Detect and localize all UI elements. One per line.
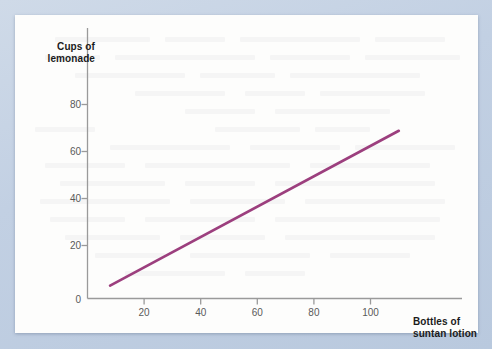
x-axis-title-line2: suntan lotion (413, 328, 492, 340)
y-tick-label-0: 0 (55, 294, 81, 305)
chart-card: 0 20 40 60 80 20 40 60 80 100 Cups of le… (15, 15, 478, 333)
y-axis-title-line2: lemonade (33, 53, 95, 65)
x-tick-label-40: 40 (186, 307, 216, 318)
x-axis-title-line1: Bottles of (413, 316, 492, 328)
plot-area: 0 20 40 60 80 20 40 60 80 100 Cups of le… (15, 15, 478, 333)
x-tick-label-60: 60 (242, 307, 272, 318)
data-line-series-0 (110, 131, 399, 286)
x-tick-label-20: 20 (129, 307, 159, 318)
page-background: 0 20 40 60 80 20 40 60 80 100 Cups of le… (0, 0, 492, 349)
y-axis-title-line1: Cups of (33, 41, 95, 53)
y-tick-label-60: 60 (55, 146, 81, 157)
y-tick-label-40: 40 (55, 193, 81, 204)
y-tick-label-80: 80 (55, 99, 81, 110)
x-tick-label-100: 100 (356, 307, 386, 318)
x-tick-label-80: 80 (299, 307, 329, 318)
y-axis-title: Cups of lemonade (33, 41, 95, 65)
y-tick-label-20: 20 (55, 240, 81, 251)
x-axis-title: Bottles of suntan lotion (413, 316, 492, 340)
